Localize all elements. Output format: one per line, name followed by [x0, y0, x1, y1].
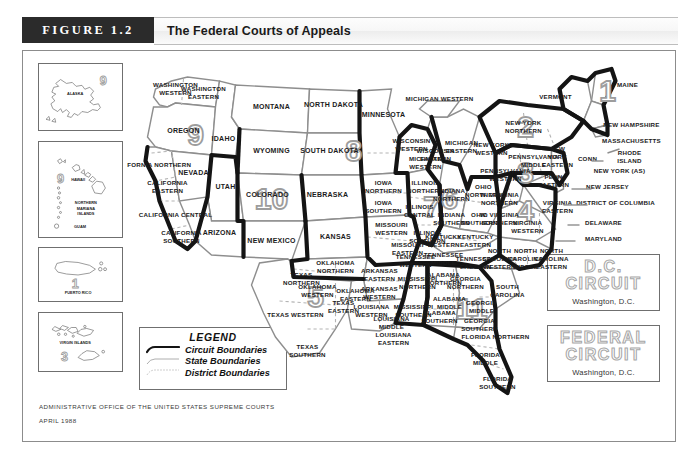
map-label-mi-w-up: MICHIGAN WESTERN — [406, 95, 474, 102]
map-label-idaho: IDAHO — [212, 135, 236, 142]
inset-label-hawaii: HAWAII — [71, 177, 85, 182]
map-label-nc-m3: MIDDLE — [513, 263, 538, 270]
map-label-mi-w2: WESTERN — [409, 163, 442, 170]
map-label-il-n: ILLINOIS — [411, 179, 439, 186]
map-label-colorado: COLORADO — [246, 191, 289, 198]
map-label-nc-m: NORTH — [514, 247, 537, 254]
map-label-ca-c: CALIFORNIA CENTRAL — [139, 211, 213, 218]
virgin-islands-map-svg: VIRGIN ISLANDS 3 — [39, 313, 122, 371]
map-label-delaware: DELAWARE — [585, 219, 622, 226]
figure-page: FIGURE 1.2 The Federal Courts of Appeals… — [0, 0, 699, 460]
map-label-tx-s: TEXAS — [297, 343, 319, 350]
map-label-ga-m: GEORGIA — [466, 299, 497, 306]
map-label-tx-n: TEXAS — [291, 271, 313, 278]
map-label-la-e: LOUISIANA — [375, 331, 411, 338]
inset-circuit-number-virgin-islands: 3 — [61, 350, 68, 364]
map-label-ny-n2: NORTHERN — [505, 127, 542, 134]
map-label-nebraska: NEBRASKA — [307, 191, 349, 198]
inset-label-nmi-1: NORTHERN — [75, 200, 97, 205]
map-label-wv-s: W. VIRGINIA — [480, 211, 519, 218]
map-label-ar-e: ARKANSAS — [361, 267, 398, 274]
map-label-montana: MONTANA — [253, 103, 290, 110]
figure-header: FIGURE 1.2 The Federal Courts of Appeals — [22, 17, 678, 43]
map-label-wa-e: WASHINGTON — [181, 85, 226, 92]
map-label-maryland: MARYLAND — [585, 235, 622, 242]
map-label-va-w: VIRGINIA — [513, 219, 543, 226]
map-label-ny-w: NEW YORK — [474, 141, 510, 148]
map-label-ia-n: IOWA — [375, 179, 393, 186]
circuit-number-9: 9 — [187, 118, 204, 151]
map-label-ky-w2: WESTERN — [427, 241, 460, 248]
map-label-ca-s: CALIFORNIA — [161, 229, 202, 236]
puerto-rico-map-svg: 1 PUERTO RICO — [39, 248, 122, 301]
map-label-ok-w2: WESTERN — [301, 291, 334, 298]
map-label-fl-m: FLORIDA — [471, 351, 500, 358]
map-label-ca-e2: EASTERN — [152, 187, 184, 194]
map-label-al-s2: SOUTHERN — [421, 317, 458, 324]
inset-circuit-number-puerto-rico: 1 — [72, 277, 79, 291]
map-label-tx-w: TEXAS WESTERN — [267, 311, 324, 318]
map-label-ri: RHODE — [618, 149, 642, 156]
map-label-tn-m2: MIDDLE — [431, 259, 456, 266]
inset-circuit-number-alaska: 9 — [100, 74, 107, 88]
map-label-fl-s2: SOUTHERN — [479, 383, 516, 390]
circuit-number-10: 10 — [255, 182, 288, 215]
inset-label-nmi-2: MARIANA — [77, 206, 96, 211]
inset-label-guam: GUAM — [74, 224, 86, 229]
map-label-utah: UTAH — [216, 183, 236, 190]
map-label-ga-s: GEORGIA — [464, 317, 495, 324]
map-label-ar-w2: WESTERN — [363, 293, 396, 300]
inset-hawaii-pacific: HAWAII 9 NORTHERN MARIANA ISLANDS GUAM — [38, 141, 123, 238]
map-label-tx-n2: NORTHERN — [283, 279, 320, 286]
map-label-ga-m2: MIDDLE — [469, 307, 494, 314]
map-label-ca-s2: SOUTHERN — [163, 237, 200, 244]
figure-frame: ALASKA 9 HAWAII — [22, 50, 676, 442]
map-label-arizona: ARIZONA — [203, 229, 237, 236]
inset-virgin-islands: VIRGIN ISLANDS 3 — [38, 312, 123, 372]
map-label-fl-s: FLORIDA — [483, 375, 512, 382]
map-label-al-s: ALABAMA — [423, 309, 456, 316]
map-label-la-w: LOUISIANA — [353, 303, 389, 310]
map-label-ca-e: CALIFORNIA — [147, 179, 188, 186]
inset-label-puerto-rico: PUERTO RICO — [65, 291, 92, 295]
map-label-nj: NEW JERSEY — [586, 183, 630, 190]
map-label-fl-n: FLORIDA NORTHERN — [462, 333, 530, 340]
map-label-nc-e2: CAROLINA — [534, 255, 569, 262]
map-label-mo-w: MISSOURI — [375, 221, 408, 228]
map-label-nc-w: NORTH — [488, 247, 511, 254]
map-label-pa-e2: EASTERN — [538, 181, 570, 188]
map-label-ia-n2: NORTHERN — [365, 187, 402, 194]
map-label-ia-s2: SOUTHERN — [365, 207, 402, 214]
inset-puerto-rico: 1 PUERTO RICO — [38, 247, 123, 302]
map-label-ca-n: CALIFORNIA NORTHERN — [127, 161, 191, 168]
map-label-oregon: OREGON — [167, 127, 200, 134]
map-label-ny-e: NEW — [550, 145, 565, 152]
map-label-la-e2: EASTERN — [378, 339, 410, 346]
map-label-ri2: ISLAND — [617, 157, 642, 164]
circuit-number-1: 1 — [599, 74, 616, 107]
map-label-mo-w2: WESTERN — [375, 229, 408, 236]
map-label-ia-s: IOWA — [375, 199, 393, 206]
alaska-map-svg: ALASKA 9 — [39, 64, 122, 130]
inset-label-nmi-3: ISLANDS — [77, 211, 94, 216]
map-label-pa-e: PENN — [544, 173, 562, 180]
map-label-kansas: KANSAS — [320, 233, 351, 240]
map-label-in-n: INDIANA — [438, 187, 466, 194]
inset-alaska: ALASKA 9 — [38, 63, 123, 131]
map-label-pa-w2: WESTERN — [489, 175, 522, 182]
map-label-sc2: CAROLINA — [490, 291, 525, 298]
us-map-container: 1 2 3 4 5 6 7 8 9 10 11 WASHINGTON WESTE… — [127, 57, 672, 439]
map-label-tx-s2: SOUTHERN — [289, 351, 326, 358]
map-label-ga-s2: SOUTHERN — [461, 325, 498, 332]
map-label-il-c: ILLINOIS — [405, 203, 433, 210]
map-label-ky-e2: EASTERN — [460, 241, 492, 248]
map-label-la-m2: MIDDLE — [379, 323, 404, 330]
map-label-in-s: INDIANA — [438, 211, 466, 218]
map-label-pa-w: PENNSYLVANIA — [480, 167, 531, 174]
map-label-ga-n2: NORTHERN — [447, 283, 484, 290]
hawaii-map-svg: HAWAII 9 NORTHERN MARIANA ISLANDS GUAM — [39, 142, 122, 237]
map-label-va-e2: EASTERN — [542, 207, 574, 214]
map-label-al-m: ALABAMA — [433, 295, 466, 302]
map-label-ar-w: ARKANSAS — [361, 285, 398, 292]
map-label-ny-e3: EASTERN — [542, 161, 574, 168]
